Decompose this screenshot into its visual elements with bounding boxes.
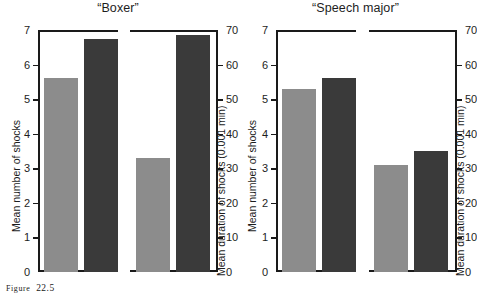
- left-axis-title-speech: Mean number of shocks: [246, 120, 258, 232]
- tick-label: 70: [465, 25, 477, 36]
- left-spine: [276, 30, 278, 272]
- tick-mark-icon: [217, 168, 223, 170]
- plot-area-speech-major: 01234567 010203040506070: [276, 30, 457, 272]
- tick-label: 20: [465, 197, 477, 208]
- tick-mark-icon: [456, 237, 462, 239]
- bar-light-subplot-0: [44, 78, 78, 272]
- bar-light-subplot-1: [374, 165, 408, 272]
- tick-mark-icon: [33, 134, 39, 136]
- left-axis-title-boxer: Mean number of shocks: [10, 120, 22, 232]
- tick-label: 50: [465, 94, 477, 105]
- tick-label: 1: [262, 232, 268, 243]
- tick-mark-icon: [217, 134, 223, 136]
- bar-dark-subplot-0: [84, 39, 118, 272]
- panel-title-boxer: “Boxer”: [0, 1, 236, 15]
- tick-mark-icon: [271, 99, 277, 101]
- tick-mark-icon: [33, 203, 39, 205]
- tick-label: 5: [24, 94, 30, 105]
- tick-label: 0: [24, 267, 30, 278]
- tick-label: 6: [262, 59, 268, 70]
- tick-mark-icon: [271, 65, 277, 67]
- tick-mark-icon: [33, 65, 39, 67]
- tick-label: 2: [24, 197, 30, 208]
- tick-label: 30: [465, 163, 477, 174]
- tick-label: 6: [24, 59, 30, 70]
- tick-mark-icon: [217, 99, 223, 101]
- tick-mark-icon: [456, 134, 462, 136]
- bar-dark-subplot-0: [322, 78, 356, 272]
- bar-dark-subplot-1: [176, 35, 210, 272]
- plot-area-boxer: 01234567 010203040506070: [38, 30, 218, 272]
- tick-label: 0: [465, 267, 471, 278]
- tick-label: 4: [24, 128, 30, 139]
- tick-mark-icon: [33, 99, 39, 101]
- tick-mark-icon: [271, 237, 277, 239]
- tick-label: 3: [24, 163, 30, 174]
- right-spine: [216, 30, 218, 272]
- top-rule-left: [276, 30, 356, 32]
- top-rule-right: [369, 30, 457, 32]
- panel-boxer: “Boxer” Mean number of shocks Mean durat…: [0, 0, 236, 298]
- tick-label: 7: [24, 25, 30, 36]
- tick-mark-icon: [217, 237, 223, 239]
- tick-label: 7: [262, 25, 268, 36]
- tick-mark-icon: [456, 99, 462, 101]
- right-spine: [455, 30, 457, 272]
- tick-label: 3: [262, 163, 268, 174]
- tick-label: 40: [465, 128, 477, 139]
- panel-speech-major: “Speech major” Mean number of shocks Mea…: [236, 0, 475, 298]
- top-rule-left: [38, 30, 118, 32]
- top-rule-right: [130, 30, 218, 32]
- tick-mark-icon: [271, 134, 277, 136]
- left-spine: [38, 30, 40, 272]
- tick-mark-icon: [33, 168, 39, 170]
- tick-label: 10: [465, 232, 477, 243]
- tick-mark-icon: [217, 65, 223, 67]
- tick-mark-icon: [456, 168, 462, 170]
- tick-label: 2: [262, 197, 268, 208]
- tick-label: 0: [226, 267, 232, 278]
- bar-light-subplot-1: [136, 158, 170, 272]
- tick-mark-icon: [456, 203, 462, 205]
- tick-label: 4: [262, 128, 268, 139]
- bar-dark-subplot-1: [414, 151, 448, 272]
- tick-mark-icon: [271, 203, 277, 205]
- tick-mark-icon: [456, 65, 462, 67]
- bar-light-subplot-0: [282, 89, 316, 272]
- tick-label: 5: [262, 94, 268, 105]
- tick-mark-icon: [217, 203, 223, 205]
- tick-label: 0: [262, 267, 268, 278]
- tick-mark-icon: [271, 168, 277, 170]
- panel-title-speech-major: “Speech major”: [236, 1, 475, 15]
- tick-mark-icon: [33, 237, 39, 239]
- tick-label: 1: [24, 232, 30, 243]
- caption-label: Figure: [6, 284, 31, 293]
- caption-number: 22.5: [36, 283, 54, 293]
- tick-label: 60: [465, 59, 477, 70]
- figure-caption: Figure 22.5: [6, 283, 55, 293]
